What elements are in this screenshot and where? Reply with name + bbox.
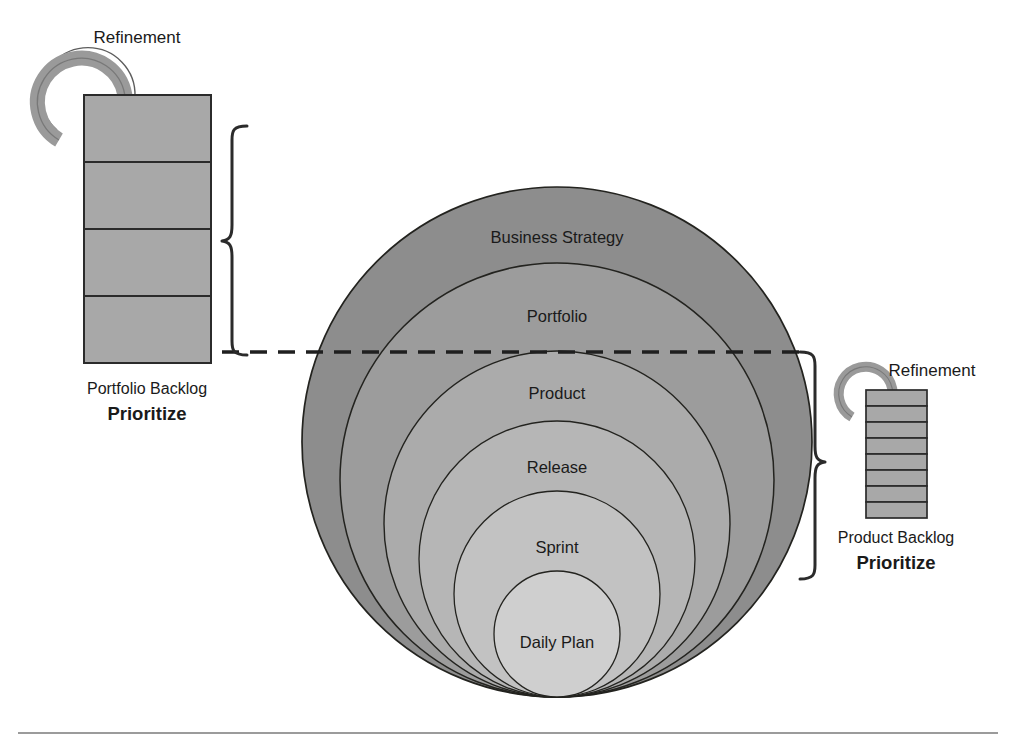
product-backlog-item[interactable] [866,438,927,454]
portfolio-backlog-item[interactable] [84,229,211,296]
product-backlog-item[interactable] [866,422,927,438]
portfolio-backlog-item[interactable] [84,95,211,162]
ring-label-product: Product [529,384,586,402]
product-backlog-item[interactable] [866,470,927,486]
portfolio-scope-brace [222,126,247,355]
portfolio-backlog-name: Portfolio Backlog [87,380,207,397]
product-backlog-item[interactable] [866,454,927,470]
ring-label-release: Release [527,458,588,476]
portfolio-backlog-action: Prioritize [107,403,186,424]
ring-label-sprint: Sprint [535,538,579,556]
product-backlog-group: Refinement Product Backlog Prioritize [838,361,976,573]
planning-onion-diagram: Business Strategy Portfolio Product Rele… [0,0,1015,746]
product-backlog-item[interactable] [866,390,927,406]
ring-label-daily-plan: Daily Plan [520,633,594,651]
product-backlog-item[interactable] [866,406,927,422]
onion-ring-daily-plan: Daily Plan [494,571,620,697]
portfolio-refinement-label: Refinement [94,28,181,47]
product-backlog-name: Product Backlog [838,529,955,546]
portfolio-backlog-group: Refinement Portfolio Backlog Prioritize [37,28,211,424]
ring-label-business-strategy: Business Strategy [491,228,625,246]
product-backlog-stack [866,390,927,518]
portfolio-backlog-item[interactable] [84,296,211,363]
onion-rings: Business Strategy Portfolio Product Rele… [302,187,812,697]
product-refinement-label: Refinement [889,361,976,380]
portfolio-backlog-item[interactable] [84,162,211,229]
diagram-canvas: Business Strategy Portfolio Product Rele… [0,0,1015,746]
product-backlog-item[interactable] [866,486,927,502]
portfolio-backlog-stack [84,95,211,363]
product-backlog-item[interactable] [866,502,927,518]
ring-label-portfolio: Portfolio [527,307,588,325]
product-backlog-action: Prioritize [856,552,935,573]
